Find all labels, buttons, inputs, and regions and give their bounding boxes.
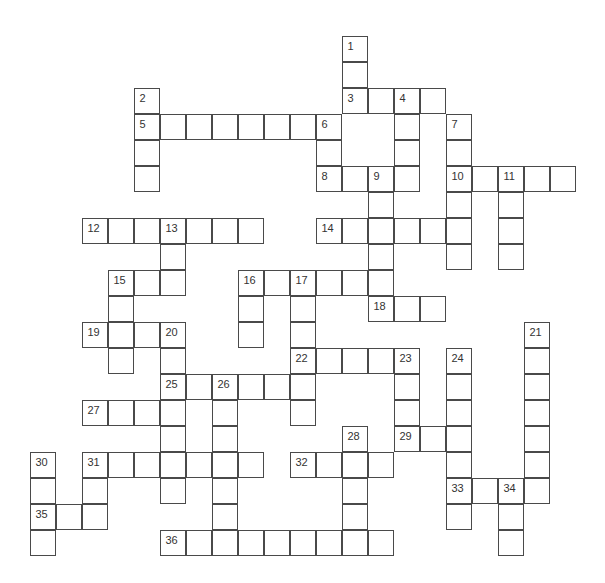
crossword-cell[interactable]: 7 <box>446 114 472 140</box>
crossword-cell[interactable] <box>212 400 238 426</box>
crossword-cell[interactable] <box>446 218 472 244</box>
crossword-cell[interactable] <box>524 348 550 374</box>
crossword-cell[interactable] <box>446 426 472 452</box>
crossword-cell[interactable] <box>134 140 160 166</box>
crossword-cell[interactable] <box>498 504 524 530</box>
crossword-cell[interactable] <box>238 114 264 140</box>
crossword-cell[interactable]: 17 <box>290 270 316 296</box>
crossword-cell[interactable] <box>342 62 368 88</box>
crossword-cell[interactable] <box>134 270 160 296</box>
crossword-cell[interactable] <box>316 530 342 556</box>
crossword-cell[interactable]: 23 <box>394 348 420 374</box>
crossword-cell[interactable] <box>342 504 368 530</box>
crossword-cell[interactable] <box>368 348 394 374</box>
crossword-cell[interactable]: 12 <box>82 218 108 244</box>
crossword-cell[interactable] <box>160 426 186 452</box>
crossword-cell[interactable] <box>316 452 342 478</box>
crossword-cell[interactable] <box>82 478 108 504</box>
crossword-cell[interactable]: 24 <box>446 348 472 374</box>
crossword-cell[interactable] <box>498 530 524 556</box>
crossword-cell[interactable] <box>368 452 394 478</box>
crossword-cell[interactable] <box>186 452 212 478</box>
crossword-cell[interactable] <box>212 478 238 504</box>
crossword-cell[interactable] <box>446 192 472 218</box>
crossword-cell[interactable] <box>550 166 576 192</box>
crossword-cell[interactable] <box>446 374 472 400</box>
crossword-cell[interactable] <box>238 322 264 348</box>
crossword-cell[interactable] <box>394 114 420 140</box>
crossword-cell[interactable] <box>212 114 238 140</box>
crossword-cell[interactable] <box>238 452 264 478</box>
crossword-cell[interactable]: 35 <box>30 504 56 530</box>
crossword-cell[interactable] <box>316 348 342 374</box>
crossword-cell[interactable] <box>186 114 212 140</box>
crossword-cell[interactable] <box>498 192 524 218</box>
crossword-cell[interactable] <box>290 114 316 140</box>
crossword-cell[interactable] <box>134 452 160 478</box>
crossword-cell[interactable] <box>108 218 134 244</box>
crossword-cell[interactable] <box>238 374 264 400</box>
crossword-cell[interactable] <box>394 400 420 426</box>
crossword-cell[interactable]: 18 <box>368 296 394 322</box>
crossword-cell[interactable] <box>160 452 186 478</box>
crossword-cell[interactable] <box>186 374 212 400</box>
crossword-cell[interactable] <box>160 400 186 426</box>
crossword-cell[interactable] <box>342 166 368 192</box>
crossword-cell[interactable] <box>160 348 186 374</box>
crossword-cell[interactable] <box>368 270 394 296</box>
crossword-cell[interactable] <box>524 166 550 192</box>
crossword-cell[interactable] <box>134 166 160 192</box>
crossword-cell[interactable] <box>446 140 472 166</box>
crossword-cell[interactable]: 8 <box>316 166 342 192</box>
crossword-cell[interactable]: 30 <box>30 452 56 478</box>
crossword-cell[interactable] <box>524 374 550 400</box>
crossword-cell[interactable]: 10 <box>446 166 472 192</box>
crossword-cell[interactable]: 4 <box>394 88 420 114</box>
crossword-cell[interactable] <box>264 530 290 556</box>
crossword-cell[interactable] <box>446 400 472 426</box>
crossword-cell[interactable] <box>342 530 368 556</box>
crossword-cell[interactable] <box>134 218 160 244</box>
crossword-cell[interactable]: 36 <box>160 530 186 556</box>
crossword-cell[interactable] <box>446 504 472 530</box>
crossword-cell[interactable] <box>212 452 238 478</box>
crossword-cell[interactable]: 27 <box>82 400 108 426</box>
crossword-cell[interactable] <box>290 374 316 400</box>
crossword-cell[interactable]: 13 <box>160 218 186 244</box>
crossword-cell[interactable] <box>498 218 524 244</box>
crossword-cell[interactable] <box>342 452 368 478</box>
crossword-cell[interactable]: 15 <box>108 270 134 296</box>
crossword-cell[interactable]: 5 <box>134 114 160 140</box>
crossword-cell[interactable]: 33 <box>446 478 472 504</box>
crossword-cell[interactable] <box>446 244 472 270</box>
crossword-cell[interactable] <box>420 218 446 244</box>
crossword-cell[interactable] <box>290 322 316 348</box>
crossword-cell[interactable]: 28 <box>342 426 368 452</box>
crossword-cell[interactable]: 1 <box>342 36 368 62</box>
crossword-cell[interactable]: 34 <box>498 478 524 504</box>
crossword-cell[interactable]: 14 <box>316 218 342 244</box>
crossword-cell[interactable]: 29 <box>394 426 420 452</box>
crossword-cell[interactable] <box>264 270 290 296</box>
crossword-cell[interactable] <box>368 244 394 270</box>
crossword-cell[interactable] <box>212 426 238 452</box>
crossword-cell[interactable] <box>368 88 394 114</box>
crossword-cell[interactable] <box>264 374 290 400</box>
crossword-cell[interactable] <box>420 296 446 322</box>
crossword-cell[interactable] <box>56 504 82 530</box>
crossword-cell[interactable] <box>186 530 212 556</box>
crossword-cell[interactable]: 3 <box>342 88 368 114</box>
crossword-cell[interactable] <box>394 218 420 244</box>
crossword-cell[interactable] <box>108 348 134 374</box>
crossword-cell[interactable] <box>342 270 368 296</box>
crossword-cell[interactable] <box>108 322 134 348</box>
crossword-cell[interactable] <box>524 452 550 478</box>
crossword-cell[interactable]: 16 <box>238 270 264 296</box>
crossword-cell[interactable] <box>368 192 394 218</box>
crossword-cell[interactable]: 20 <box>160 322 186 348</box>
crossword-cell[interactable]: 25 <box>160 374 186 400</box>
crossword-cell[interactable] <box>342 348 368 374</box>
crossword-cell[interactable] <box>30 478 56 504</box>
crossword-cell[interactable] <box>472 478 498 504</box>
crossword-cell[interactable] <box>238 218 264 244</box>
